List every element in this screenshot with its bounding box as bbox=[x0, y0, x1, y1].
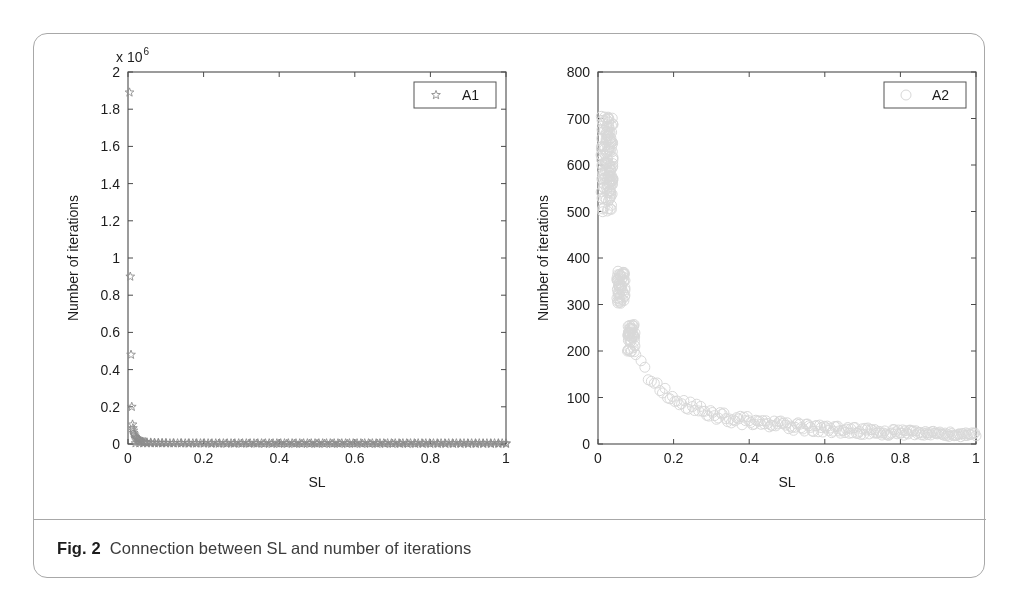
figure-caption: Fig. 2Connection between SL and number o… bbox=[34, 519, 986, 577]
caption-label: Fig. 2 bbox=[57, 539, 101, 557]
figure-page: Fig. 2Connection between SL and number o… bbox=[0, 0, 1018, 615]
chart-panel-a2 bbox=[526, 42, 996, 522]
caption-line: Fig. 2Connection between SL and number o… bbox=[57, 539, 471, 558]
scatter-chart-a2 bbox=[526, 42, 996, 522]
chart-panel-a1 bbox=[56, 42, 526, 522]
scatter-chart-a1 bbox=[56, 42, 526, 522]
caption-body: Connection between SL and number of iter… bbox=[110, 539, 472, 557]
figure-container: Fig. 2Connection between SL and number o… bbox=[33, 33, 985, 578]
